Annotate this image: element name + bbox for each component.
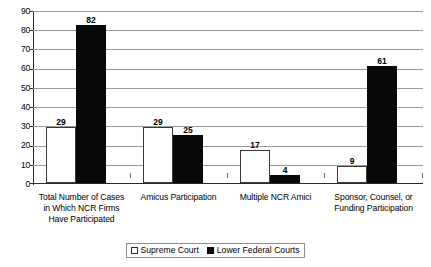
category-label-line: in Which NCR Firms [33,203,130,214]
y-tick-label: 70 [4,45,30,54]
chart-legend: Supreme Court Lower Federal Courts [126,243,306,258]
y-tick-label: 40 [4,103,30,112]
bar-lower-federal-courts: 25 [173,135,203,183]
y-tick-mark [30,30,33,31]
bar-supreme-court: 17 [240,150,270,183]
y-tick-label: 60 [4,64,30,73]
category-label-line: Sponsor, Counsel, or [324,192,423,203]
bar-lower-federal-courts: 61 [367,66,397,183]
category-label-line: Funding Participation [324,203,423,214]
y-tick-label: 0 [4,180,30,189]
bar-value-label: 25 [183,126,192,135]
y-tick-label: 10 [4,161,30,170]
legend-item-supreme-court: Supreme Court [131,246,199,255]
x-axis-category-label: Multiple NCR Amici [227,192,324,203]
bar-value-label: 29 [56,118,65,127]
category-label-line: Total Number of Cases [33,192,130,203]
bar-value-label: 61 [377,57,386,66]
legend-label: Supreme Court [141,246,199,255]
filled-square-swatch-icon [207,247,214,254]
category-separator [324,173,325,178]
legend-label: Lower Federal Courts [217,246,300,255]
y-tick-label: 80 [4,26,30,35]
y-tick-mark [30,126,33,127]
bar-value-label: 9 [350,157,355,166]
category-separator [227,173,228,178]
bar-lower-federal-courts: 4 [270,175,300,183]
y-tick-mark [30,107,33,108]
bar-value-label: 82 [86,16,95,25]
y-tick-label: 90 [4,7,30,16]
y-tick-label: 30 [4,122,30,131]
x-axis-category-label: Sponsor, Counsel, or Funding Participati… [324,192,423,214]
legend-item-lower-federal-courts: Lower Federal Courts [207,246,300,255]
plot-area: 29 82 29 25 17 4 9 61 [33,11,423,184]
bar-supreme-court: 9 [337,166,367,183]
y-tick-label: 20 [4,141,30,150]
bar-lower-federal-courts: 82 [76,25,106,183]
y-tick-mark [30,49,33,50]
category-separator [130,173,131,178]
category-label-line: Amicus Participation [130,192,227,203]
bar-value-label: 4 [283,166,288,175]
bar-value-label: 17 [250,141,259,150]
y-tick-mark [30,165,33,166]
y-tick-mark [30,11,33,12]
category-label-line: Multiple NCR Amici [227,192,324,203]
category-label-line: Have Participated [33,214,130,225]
bar-supreme-court: 29 [143,127,173,183]
x-axis-category-label: Total Number of Cases in Which NCR Firms… [33,192,130,225]
bar-supreme-court: 29 [46,127,76,183]
y-tick-label: 50 [4,84,30,93]
y-tick-mark [30,88,33,89]
y-tick-mark [30,69,33,70]
category-separator [422,173,423,178]
bar-value-label: 29 [153,118,162,127]
open-square-swatch-icon [131,247,138,254]
y-tick-mark [30,183,33,184]
x-axis-category-label: Amicus Participation [130,192,227,203]
x-axis-baseline [33,183,423,184]
y-tick-mark [30,146,33,147]
gridline-90 [33,11,423,12]
bar-chart: 90 80 70 60 50 40 30 20 10 0 [0,0,431,267]
